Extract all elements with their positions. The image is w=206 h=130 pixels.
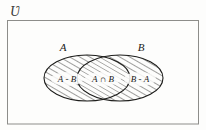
venn-diagram-figure: Ʋ A B A - B A ∩ B B - A	[0, 0, 206, 130]
universal-set-label: Ʋ	[10, 4, 20, 19]
set-label-a: A	[59, 41, 67, 53]
set-label-b: B	[138, 41, 145, 53]
venn-diagram-canvas: Ʋ A B A - B A ∩ B B - A	[0, 0, 206, 130]
region-label-a-intersect-b: A ∩ B	[91, 74, 114, 84]
region-label-a-minus-b: A - B	[57, 74, 77, 84]
region-label-b-minus-a: B - A	[131, 74, 150, 84]
